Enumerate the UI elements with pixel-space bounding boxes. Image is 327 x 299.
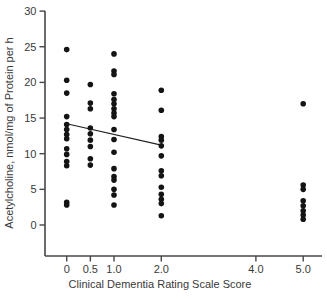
data-point	[111, 91, 117, 97]
x-tick-label: 2.0	[154, 263, 169, 275]
y-tick-label: 20	[24, 76, 36, 88]
data-point	[111, 72, 117, 78]
x-tick-label: 0	[64, 263, 70, 275]
data-point	[88, 106, 94, 112]
data-point	[111, 114, 117, 120]
data-point	[64, 77, 70, 83]
data-point	[300, 216, 306, 222]
data-point	[64, 146, 70, 152]
data-layer	[64, 47, 306, 222]
y-tick-label: 5	[30, 183, 36, 195]
y-tick-label: 10	[24, 148, 36, 160]
data-point	[111, 101, 117, 107]
data-point	[159, 173, 165, 179]
data-point	[111, 127, 117, 133]
data-point	[64, 127, 70, 133]
data-point	[88, 100, 94, 106]
data-point	[64, 163, 70, 169]
y-tick-label: 15	[24, 112, 36, 124]
data-point	[159, 213, 165, 219]
data-point	[159, 192, 165, 198]
data-point	[88, 125, 94, 131]
data-point	[300, 187, 306, 193]
data-point	[111, 51, 117, 57]
data-point	[159, 143, 165, 149]
x-tick-label: 1.0	[106, 263, 121, 275]
x-tick-label: 4.0	[248, 263, 263, 275]
x-tick-label: 5.0	[296, 263, 311, 275]
data-point	[111, 187, 117, 193]
data-point	[111, 166, 117, 172]
data-point	[64, 136, 70, 142]
data-point	[111, 192, 117, 198]
data-point	[111, 202, 117, 208]
data-point	[64, 90, 70, 96]
y-tick-label: 0	[30, 219, 36, 231]
data-point	[88, 82, 94, 88]
data-point	[64, 152, 70, 158]
data-point	[159, 87, 165, 93]
x-axis-title: Clinical Dementia Rating Scale Score	[69, 278, 252, 290]
scatter-plot-figure: 05101520253000.51.02.04.05.0 Clinical De…	[0, 0, 327, 299]
data-point	[64, 202, 70, 208]
y-axis-title: Acetylcholine, nmol/mg of Protein per h	[3, 37, 15, 228]
data-point	[64, 47, 70, 53]
data-point	[300, 203, 306, 209]
data-point	[111, 177, 117, 183]
data-point	[159, 107, 165, 113]
data-point	[88, 144, 94, 150]
data-point	[111, 149, 117, 155]
data-point	[111, 137, 117, 143]
data-point	[300, 198, 306, 204]
data-point	[159, 168, 165, 174]
data-point	[159, 184, 165, 190]
y-tick-label: 25	[24, 41, 36, 53]
data-point	[88, 162, 94, 168]
data-point	[64, 122, 70, 128]
data-point	[64, 114, 70, 120]
data-point	[88, 137, 94, 143]
data-point	[159, 201, 165, 207]
data-point	[88, 131, 94, 137]
data-point	[159, 137, 165, 143]
x-tick-label: 0.5	[83, 263, 98, 275]
scatter-plot-canvas: 05101520253000.51.02.04.05.0 Clinical De…	[0, 0, 327, 299]
y-tick-label: 30	[24, 5, 36, 17]
data-point	[88, 156, 94, 162]
data-point	[300, 101, 306, 107]
data-point	[159, 153, 165, 159]
